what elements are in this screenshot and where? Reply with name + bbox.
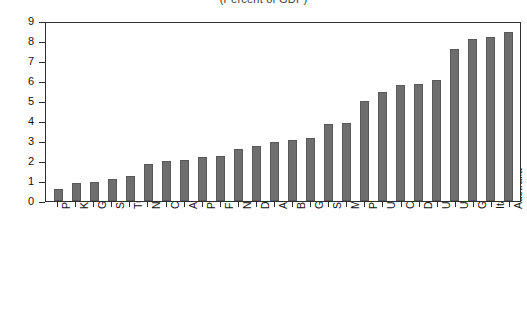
- bar-slot: [355, 23, 373, 201]
- bar: [234, 149, 243, 201]
- x-axis-tick: [166, 202, 167, 207]
- y-axis-tick-label: 4: [0, 116, 34, 127]
- x-axis-tick: [57, 202, 58, 207]
- bar: [126, 176, 135, 201]
- bar: [270, 142, 279, 201]
- x-axis-tick: [292, 202, 293, 207]
- x-axis-tick: [202, 202, 203, 207]
- y-axis-tick-label: 9: [0, 16, 34, 27]
- y-axis-tick-label: 7: [0, 56, 34, 67]
- bar: [198, 157, 207, 201]
- bar: [54, 189, 63, 201]
- bar-slot: [301, 23, 319, 201]
- bar-slot: [337, 23, 355, 201]
- bar: [72, 183, 81, 201]
- bar: [468, 39, 477, 201]
- bar-slot: [265, 23, 283, 201]
- bar: [180, 160, 189, 201]
- bar-slot: [319, 23, 337, 201]
- bar: [324, 124, 333, 201]
- x-axis-tick: [75, 202, 76, 207]
- bar-slot: [121, 23, 139, 201]
- bar-slot: [211, 23, 229, 201]
- x-axis-tick: [238, 202, 239, 207]
- bar: [360, 101, 369, 201]
- x-axis-tick: [111, 202, 112, 207]
- bar-slot: [463, 23, 481, 201]
- x-axis-tick: [419, 202, 420, 207]
- x-axis-tick: [184, 202, 185, 207]
- x-axis-tick: [473, 202, 474, 207]
- bar-slot: [391, 23, 409, 201]
- bar-slot: [427, 23, 445, 201]
- bar-slot: [409, 23, 427, 201]
- x-axis-tick: [491, 202, 492, 207]
- bar: [288, 140, 297, 201]
- x-axis-tick: [129, 202, 130, 207]
- x-axis-tick: [346, 202, 347, 207]
- x-axis-tick: [509, 202, 510, 207]
- bar-slot: [247, 23, 265, 201]
- bar-slot: [229, 23, 247, 201]
- x-axis-tick: [274, 202, 275, 207]
- bar: [432, 80, 441, 201]
- bar: [342, 123, 351, 201]
- x-axis-tick: [364, 202, 365, 207]
- x-axis-tick: [437, 202, 438, 207]
- x-axis-tick: [401, 202, 402, 207]
- x-axis-tick: [310, 202, 311, 207]
- bar: [306, 138, 315, 201]
- y-axis-tick-label: 3: [0, 136, 34, 147]
- bar-slot: [49, 23, 67, 201]
- bar: [504, 32, 513, 201]
- bar-slot: [193, 23, 211, 201]
- bar-slot: [139, 23, 157, 201]
- bar: [90, 182, 99, 201]
- bar-slot: [85, 23, 103, 201]
- bar: [486, 37, 495, 201]
- y-axis-tick-label: 8: [0, 36, 34, 47]
- bar-slot: [373, 23, 391, 201]
- bar-slot: [103, 23, 121, 201]
- bar-slot: [499, 23, 517, 201]
- bar-slot: [157, 23, 175, 201]
- bar: [216, 156, 225, 201]
- bar: [450, 49, 459, 201]
- y-axis-tick-label: 6: [0, 76, 34, 87]
- x-axis-tick: [93, 202, 94, 207]
- x-axis-tick: [147, 202, 148, 207]
- bar: [378, 92, 387, 201]
- y-axis-tick-label: 1: [0, 176, 34, 187]
- x-axis-tick: [382, 202, 383, 207]
- bar: [396, 85, 405, 201]
- x-axis-tick: [328, 202, 329, 207]
- bar-slot: [481, 23, 499, 201]
- bar-slot: [175, 23, 193, 201]
- x-axis-tick: [256, 202, 257, 207]
- bar: [108, 179, 117, 201]
- bar: [144, 164, 153, 201]
- chart-title: (Percent of GDP): [0, 0, 527, 5]
- bar: [162, 161, 171, 201]
- x-axis-tick: [455, 202, 456, 207]
- y-axis-tick-label: 0: [0, 196, 34, 207]
- y-axis-tick-label: 5: [0, 96, 34, 107]
- bar-chart-figure: (Percent of GDP) Percent of GDP 01234567…: [0, 0, 527, 312]
- bar-series: [46, 23, 520, 201]
- x-axis-tick: [220, 202, 221, 207]
- bar: [252, 146, 261, 201]
- bar-slot: [283, 23, 301, 201]
- bar: [414, 84, 423, 201]
- bar-slot: [67, 23, 85, 201]
- plot-area: [45, 22, 521, 202]
- y-axis-tick-label: 2: [0, 156, 34, 167]
- bar-slot: [445, 23, 463, 201]
